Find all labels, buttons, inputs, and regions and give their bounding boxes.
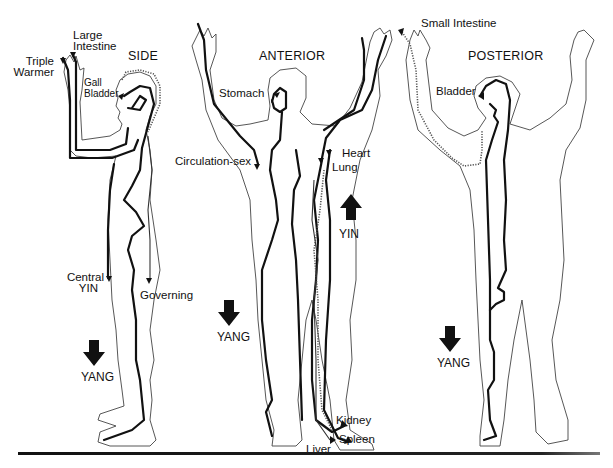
posterior-body-outline [406,30,594,446]
anterior-heart-meridian [322,36,386,158]
arrow-down-icon [83,340,105,366]
label-gall-1: Gall [84,77,102,88]
side-ear-meridian [128,96,146,110]
label-heart: Heart [342,147,370,159]
label-anterior-yang: YANG [217,330,250,344]
label-side-yang: YANG [81,370,114,384]
side-body-outline [64,55,160,446]
label-lung: Lung [332,161,358,173]
anterior-spleen-meridian [324,150,348,442]
view-title-posterior: POSTERIOR [468,50,543,62]
label-large-intestine-2: Intestine [73,40,116,52]
label-central-2: YIN [52,282,98,294]
meridian-diagram [0,0,613,468]
side-head-meridian [104,86,154,440]
anterior-stomach-meridian [272,88,286,112]
arrow-down-icon [218,300,240,326]
label-governing: Governing [140,289,193,301]
arrow-up-icon [340,194,362,220]
label-stomach: Stomach [219,87,264,99]
posterior-bladder-inner [484,104,498,440]
label-anterior-yin: YIN [339,227,359,241]
side-yang-arrow [83,340,105,366]
posterior-yang-arrow [439,326,461,352]
label-kidney: Kidney [336,414,371,426]
side-central-yin [108,164,114,278]
side-figure [60,52,160,446]
circulation-sex-arrowhead [254,164,260,170]
label-circulation-sex: Circulation-sex [175,155,251,167]
label-triple-warmer-2: Warmer [12,66,54,78]
label-small-intestine: Small Intestine [421,17,496,29]
anterior-center-meridian [292,150,302,420]
anterior-lung-meridian [324,38,364,130]
label-gall-2: Bladder [84,88,118,99]
posterior-figure [398,28,594,446]
label-posterior-yang: YANG [437,356,470,370]
bottom-rule [18,452,600,455]
governing-arrowhead [146,278,152,284]
label-spleen: Spleen [339,433,375,445]
view-title-anterior: ANTERIOR [259,50,325,62]
arrow-down-icon [439,326,461,352]
label-bladder: Bladder [436,85,476,97]
anterior-yin-arrow [340,194,362,220]
anterior-yang-arrow [218,300,240,326]
view-title-side: SIDE [128,50,158,62]
